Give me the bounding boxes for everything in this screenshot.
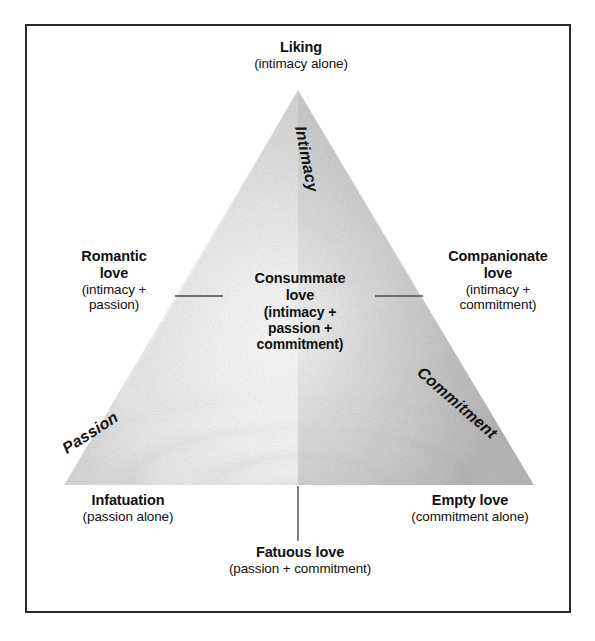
liking-title: Liking [201, 39, 401, 56]
vertex-label-liking: Liking (intimacy alone) [201, 39, 401, 71]
center-label-consummate-love: Consummate love (intimacy + passion + co… [185, 270, 415, 352]
companionate-detail-line2: commitment) [423, 297, 573, 313]
romantic-title-line1: Romantic [49, 248, 179, 265]
infatuation-title: Infatuation [35, 492, 221, 509]
romantic-detail-line2: passion) [49, 297, 179, 313]
liking-detail: (intimacy alone) [201, 56, 401, 72]
fatuous-detail: (passion + commitment) [183, 561, 417, 577]
consummate-detail-line1: (intimacy + [185, 304, 415, 320]
consummate-detail-line2: passion + [185, 320, 415, 336]
consummate-title-line2: love [185, 287, 415, 304]
fatuous-title: Fatuous love [183, 544, 417, 561]
consummate-detail-line3: commitment) [185, 336, 415, 352]
empty-love-detail: (commitment alone) [367, 509, 573, 525]
vertex-label-infatuation: Infatuation (passion alone) [35, 492, 221, 524]
companionate-detail-line1: (intimacy + [423, 282, 573, 298]
figure-frame: Intimacy Passion Commitment Liking (inti… [25, 24, 571, 613]
romantic-title-line2: love [49, 265, 179, 282]
romantic-detail-line1: (intimacy + [49, 282, 179, 298]
triangle-diagram: Intimacy Passion Commitment Liking (inti… [27, 26, 569, 611]
vertex-label-empty-love: Empty love (commitment alone) [367, 492, 573, 524]
consummate-title-line1: Consummate [185, 270, 415, 287]
side-label-romantic-love: Romantic love (intimacy + passion) [49, 248, 179, 313]
companionate-title-line2: love [423, 265, 573, 282]
side-label-fatuous-love: Fatuous love (passion + commitment) [183, 544, 417, 576]
side-label-companionate-love: Companionate love (intimacy + commitment… [423, 248, 573, 313]
empty-love-title: Empty love [367, 492, 573, 509]
infatuation-detail: (passion alone) [35, 509, 221, 525]
companionate-title-line1: Companionate [423, 248, 573, 265]
